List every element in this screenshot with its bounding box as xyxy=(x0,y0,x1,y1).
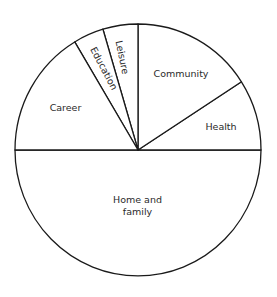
label-home-and-family-line2: family xyxy=(123,206,153,217)
label-health: Health xyxy=(205,121,236,132)
label-community: Community xyxy=(154,68,209,79)
pie-slices xyxy=(15,24,261,276)
label-career: Career xyxy=(50,102,82,113)
label-home-and-family-line1: Home and xyxy=(113,194,162,205)
pie-chart: Home and family Health Community Leisure… xyxy=(0,0,277,297)
